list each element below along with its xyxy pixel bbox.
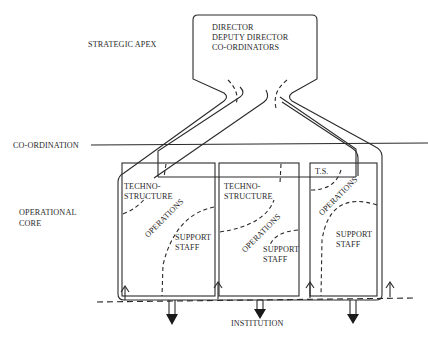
unit1-support-line1: SUPPORT (175, 233, 211, 242)
down-arrow-3 (347, 300, 359, 324)
down-arrow-1 (166, 300, 178, 325)
operational-core-label-line2: CORE (19, 219, 41, 228)
unit2-support-line2: STAFF (263, 255, 288, 264)
unit1-technostructure-line2: STRUCTURE (124, 192, 173, 201)
right-channel-inner (280, 97, 356, 177)
apex-coordinators: CO-ORDINATORS (212, 43, 279, 52)
coordination-label: CO-ORDINATION (13, 141, 79, 150)
unit3-support-line1: SUPPORT (336, 230, 372, 239)
strategic-apex-label: STRATEGIC APEX (88, 40, 157, 49)
unit1-technostructure-line1: TECHNO- (124, 182, 161, 191)
up-arrow-4 (386, 282, 394, 297)
apex-inner-left-line (154, 90, 268, 178)
unit2-top-dash (280, 164, 281, 183)
unit3-operations-label: OPERATIONS (317, 175, 360, 218)
unit3-technostructure-label: T.S. (315, 167, 328, 176)
unit2-technostructure-line2: STRUCTURE (224, 192, 273, 201)
organization-diagram: STRATEGIC APEX CO-ORDINATION OPERATIONAL… (0, 0, 428, 341)
unit3-support-line2: STAFF (336, 240, 361, 249)
apex-director: DIRECTOR (212, 23, 254, 32)
institution-label: INSTITUTION (231, 319, 284, 328)
unit1-support-line2: STAFF (175, 243, 200, 252)
apex-inner-right-line (282, 102, 358, 176)
unit2-support-boundary (270, 230, 298, 245)
unit2-technostructure-line1: TECHNO- (224, 182, 261, 191)
coordination-line (91, 143, 428, 145)
apex-deputy-director: DEPUTY DIRECTOR (212, 33, 289, 42)
unit2-support-line1: SUPPORT (263, 245, 299, 254)
operational-core-label-line1: OPERATIONAL (19, 208, 77, 217)
down-arrow-2 (254, 300, 266, 319)
